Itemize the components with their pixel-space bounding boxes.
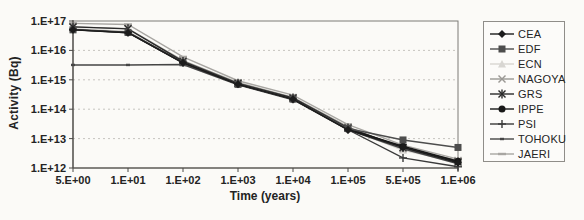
legend-item-edf: EDF — [489, 42, 564, 56]
y-tick-label: 1.E+13 — [31, 133, 66, 145]
x-tick-label: 1.E+05 — [330, 174, 365, 186]
x-tick-label: 1.E+03 — [220, 174, 255, 186]
legend-marker-triangle-icon — [489, 58, 515, 70]
legend-item-nagoya: NAGOYA — [489, 72, 564, 86]
legend-marker-dot-icon — [489, 133, 515, 145]
series-marker-diamond — [498, 30, 506, 38]
y-tick-label: 1.E+16 — [31, 44, 66, 56]
y-tick-label: 1.E+12 — [31, 162, 66, 174]
legend-marker-x-icon — [489, 73, 515, 85]
series-marker-plus — [498, 120, 506, 128]
legend-marker-circle-icon — [489, 103, 515, 115]
legend-marker-diamond-icon — [489, 28, 515, 40]
y-tick-label: 1.E+17 — [31, 15, 66, 27]
x-tick-label: 5.E+00 — [55, 174, 90, 186]
x-tick-label: 1.E+01 — [110, 174, 145, 186]
legend-item-grs: GRS — [489, 87, 564, 101]
legend-item-cea: CEA — [489, 27, 564, 41]
legend-label: TOHOKU — [518, 133, 566, 145]
series-marker-dot — [500, 137, 504, 139]
legend-item-jaeri: JAERI — [489, 147, 564, 161]
legend-label: NAGOYA — [518, 73, 565, 85]
series-marker-dash — [498, 152, 506, 154]
legend-label: JAERI — [518, 148, 550, 160]
y-tick-label: 1.E+14 — [31, 103, 67, 115]
series-marker-dot — [126, 64, 130, 66]
legend-item-ippe: IPPE — [489, 102, 564, 116]
x-tick-label: 1.E+06 — [440, 174, 475, 186]
legend-item-psi: PSI — [489, 117, 564, 131]
series-marker-square — [400, 136, 407, 143]
legend-marker-asterisk-icon — [489, 88, 515, 100]
legend-label: GRS — [518, 88, 542, 100]
y-tick-label: 1.E+15 — [31, 74, 66, 86]
x-tick-label: 5.E+05 — [385, 174, 420, 186]
legend-item-tohoku: TOHOKU — [489, 132, 564, 146]
series-markers-CEA — [69, 26, 462, 167]
x-tick-label: 1.E+04 — [275, 174, 311, 186]
series-marker-plus — [399, 154, 407, 162]
series-marker-circle — [499, 105, 506, 112]
legend-label: EDF — [518, 43, 541, 55]
legend-label: ECN — [518, 58, 542, 70]
legend-marker-dash-icon — [489, 148, 515, 160]
legend-marker-plus-icon — [489, 118, 515, 130]
chart-figure: 1.E+171.E+161.E+151.E+141.E+131.E+125.E+… — [0, 0, 584, 220]
x-tick-label: 1.E+02 — [165, 174, 200, 186]
legend-marker-square-icon — [489, 43, 515, 55]
x-axis-title: Time (years) — [180, 189, 350, 203]
y-axis-title: Activity (Bq) — [7, 43, 21, 143]
legend-label: CEA — [518, 28, 541, 40]
series-marker-square — [499, 45, 506, 52]
series-marker-square — [455, 144, 462, 151]
chart-legend: CEAEDFECNNAGOYAGRSIPPEPSITOHOKUJAERI — [483, 21, 565, 162]
series-marker-dot — [71, 64, 75, 66]
legend-label: PSI — [518, 118, 536, 130]
legend-item-ecn: ECN — [489, 57, 564, 71]
legend-label: IPPE — [518, 103, 544, 115]
